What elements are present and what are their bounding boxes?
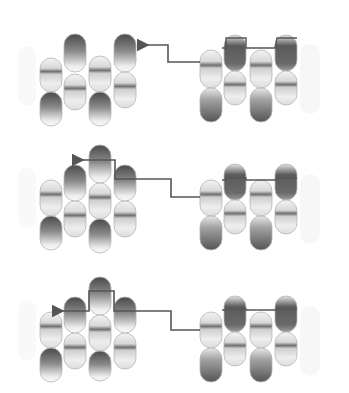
capsule-dark-top [89, 219, 111, 253]
capsule-band [275, 71, 297, 105]
capsule-dark-bottom [200, 88, 222, 122]
ghost-capsule [18, 46, 36, 106]
capsule-dark-mid [224, 35, 246, 71]
capsule-dark-top [114, 297, 136, 333]
capsule-band [250, 50, 272, 88]
capsule-band [89, 183, 111, 219]
panel-1 [18, 34, 320, 126]
capsule-band [114, 72, 136, 108]
capsule-dark-top [40, 92, 62, 126]
capsule-band [224, 71, 246, 105]
capsule-band [40, 180, 62, 216]
capsule-band [89, 315, 111, 351]
capsule-dark-mid [275, 296, 297, 332]
capsule-dark-top [40, 216, 62, 250]
capsule-layer-diagram [0, 0, 349, 393]
left-group-capsules [40, 34, 136, 126]
ghost-capsule [300, 44, 320, 114]
capsule-dark-top [64, 165, 86, 201]
capsule-dark-top [89, 145, 111, 183]
capsule-dark-top [89, 92, 111, 126]
capsule-dark-top [64, 34, 86, 72]
capsule-dark-bottom [250, 88, 272, 122]
capsule-band [89, 56, 111, 92]
capsule-band [224, 200, 246, 234]
capsule-band [250, 180, 272, 216]
capsule-dark-top [89, 277, 111, 315]
capsule-band [64, 201, 86, 237]
capsule-dark-top [64, 297, 86, 333]
capsule-dark-bottom [200, 216, 222, 250]
capsule-dark-top [114, 34, 136, 72]
capsule-dark-mid [275, 164, 297, 200]
capsule-dark-top [114, 165, 136, 201]
ghost-capsule [300, 306, 320, 376]
left-group-capsules [40, 277, 136, 382]
capsule-band [114, 201, 136, 237]
panel-3 [18, 277, 320, 382]
ghost-capsule [300, 174, 320, 244]
ghost-capsule [18, 300, 36, 360]
capsule-band [64, 333, 86, 369]
capsule-dark-mid [224, 296, 246, 332]
diagram-stage [0, 0, 349, 393]
capsule-band [200, 312, 222, 348]
capsule-band [250, 312, 272, 348]
capsule-band [200, 50, 222, 88]
right-group-capsules [200, 164, 297, 250]
capsule-dark-mid [275, 35, 297, 71]
capsule-band [64, 74, 86, 110]
capsule-dark-top [89, 351, 111, 381]
capsule-dark-mid [224, 164, 246, 200]
capsule-band [40, 58, 62, 92]
capsule-band [40, 312, 62, 348]
capsule-band [224, 332, 246, 366]
ghost-capsule [18, 168, 36, 228]
capsule-band [275, 200, 297, 234]
capsule-band [200, 180, 222, 216]
capsule-band [114, 333, 136, 369]
panel-2 [18, 145, 320, 253]
capsule-dark-top [40, 348, 62, 382]
capsule-dark-bottom [250, 348, 272, 382]
capsule-dark-bottom [250, 216, 272, 250]
left-group-capsules [40, 145, 136, 253]
transfer-arrow [148, 45, 200, 62]
capsule-dark-bottom [200, 348, 222, 382]
capsule-band [275, 332, 297, 366]
